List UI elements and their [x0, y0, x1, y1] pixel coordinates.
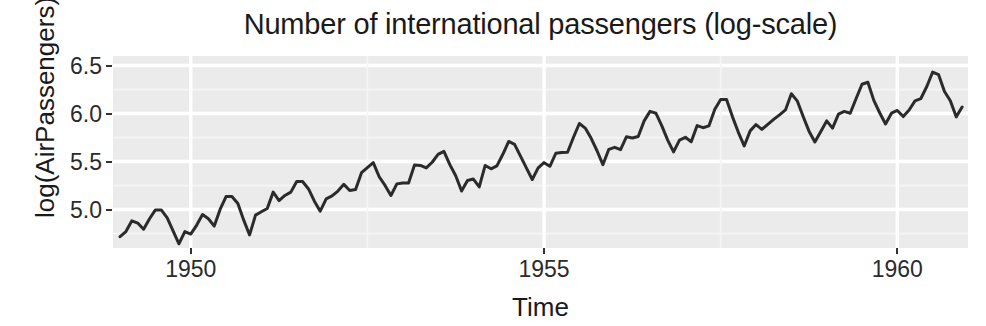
- y-axis-tick-label: 5.5: [46, 148, 102, 175]
- series-line-log-airpassengers: [113, 56, 968, 248]
- y-axis-tick-labels: 5.05.56.06.5: [46, 0, 102, 326]
- x-axis-tick-mark: [543, 248, 545, 254]
- x-axis-tick-label: 1955: [489, 256, 599, 283]
- plot-panel: [113, 56, 968, 248]
- x-axis-title: Time: [113, 292, 968, 323]
- y-axis-tick-mark: [106, 161, 112, 163]
- y-axis-tick-label: 5.0: [46, 196, 102, 223]
- y-axis-tick-mark: [106, 209, 112, 211]
- x-axis-tick-mark: [190, 248, 192, 254]
- chart-container: Number of international passengers (log-…: [0, 0, 986, 326]
- x-axis-tick-mark: [896, 248, 898, 254]
- x-axis-tick-label: 1960: [842, 256, 952, 283]
- y-axis-tick-mark: [106, 113, 112, 115]
- x-axis-tick-label: 1950: [136, 256, 246, 283]
- y-axis-tick-label: 6.0: [46, 100, 102, 127]
- y-axis-tick-label: 6.5: [46, 52, 102, 79]
- y-axis-tick-mark: [106, 65, 112, 67]
- chart-title: Number of international passengers (log-…: [113, 4, 968, 44]
